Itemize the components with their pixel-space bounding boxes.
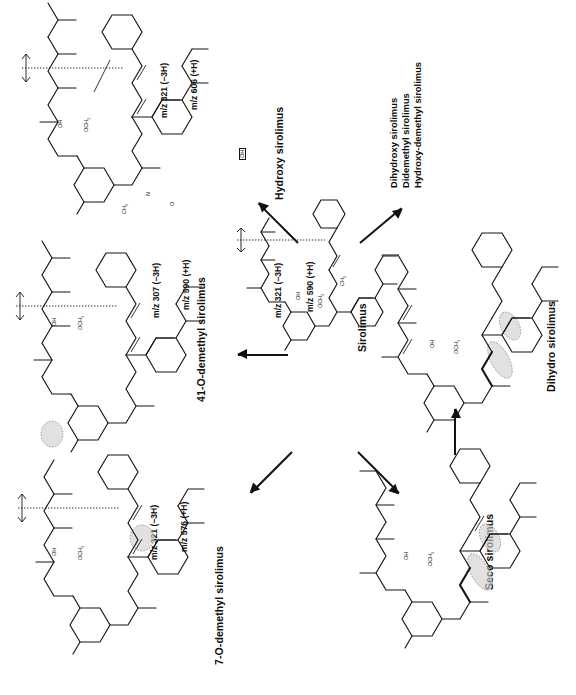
atom-label-oh-7: OH	[52, 548, 57, 556]
atom-label-oh-seco: OH	[404, 552, 409, 560]
atom-label-och3-seco: OCH3	[428, 552, 436, 566]
structure-41-o-demethyl-sirolimus	[22, 272, 247, 457]
other-metabolite-item-2: Didemethyl sirolimus	[401, 93, 410, 188]
other-metabolite-item-3: Hydroxy-demethyl sirolimus	[413, 62, 422, 188]
other-metabolite-item-1: Dihydroxy sirolimus	[389, 98, 398, 188]
atom-label-och3-dihydro: OCH3	[454, 340, 462, 354]
atom-label-n: N	[146, 192, 151, 196]
atom-label-oh-41: OH	[52, 318, 57, 326]
structure-7-o-demethyl-sirolimus	[24, 468, 239, 663]
atom-label-oh-dihydro: OH	[430, 340, 435, 348]
atom-label-o: O	[170, 202, 175, 206]
atom-label-och3-center: OCH3	[318, 294, 326, 308]
atom-label-och3-41: OCH3	[78, 316, 86, 330]
atom-label-ch3: CH3	[122, 204, 130, 214]
figure-canvas: Hydroxy sirolimus m/z 321 (−3H) m/z 606 …	[0, 0, 576, 695]
atom-label-ch3-center: CH3	[340, 276, 348, 286]
structure-hydroxy-sirolimus	[28, 30, 278, 220]
structure-seco-sirolimus	[358, 470, 548, 670]
structure-dihydro-sirolimus	[382, 262, 557, 462]
atom-label-oh-center: OH	[296, 292, 301, 300]
atom-label-och3-7: OCH3	[78, 546, 86, 560]
atom-label-oh: OH	[58, 120, 63, 128]
structure-sirolimus	[255, 220, 385, 400]
atom-label-och3: OCH3	[84, 118, 92, 132]
arrow-to-7-o-demethyl	[251, 452, 292, 493]
